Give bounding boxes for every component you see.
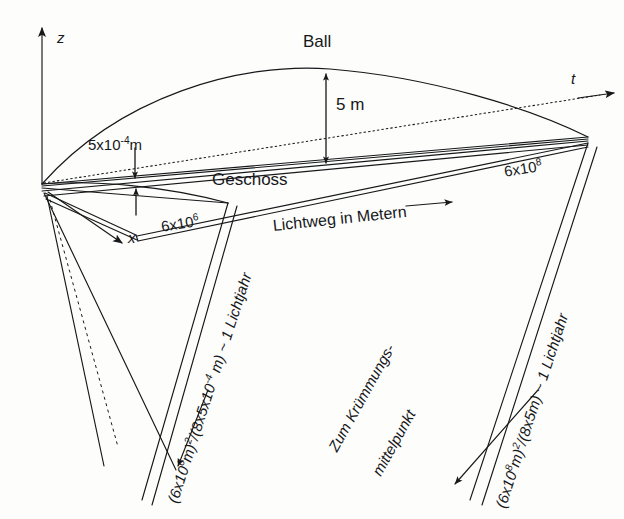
geschoss-trajectory	[42, 183, 228, 203]
curvature-line-right-b	[482, 147, 597, 505]
t-axis-head	[578, 93, 614, 98]
geschoss-height-exponent: -4	[121, 135, 130, 146]
z-axis-label: z	[57, 30, 65, 47]
geschoss-chord	[42, 188, 228, 203]
ball-height-label: 5 m	[336, 95, 364, 114]
t-axis-label: t	[571, 71, 575, 88]
center-of-curvature-note-line2: mittelpunkt	[369, 366, 442, 479]
light-path-arrow	[406, 202, 452, 206]
x-axis-label: x	[128, 230, 136, 247]
curvature-line-left-dotted	[50, 200, 118, 447]
figure-root: z x t Ball 5 m Geschoss 5x10-4m 6x106 6x…	[0, 0, 624, 519]
geschoss-height-mantissa: 5x10	[88, 136, 121, 153]
geschoss-label: Geschoss	[212, 170, 288, 189]
ball-label: Ball	[303, 32, 331, 51]
prism-edge-top	[45, 193, 136, 235]
geschoss-height-label: 5x10-4m	[88, 137, 142, 154]
geschoss-height-unit: m	[130, 136, 143, 153]
curvature-line-left-inner	[47, 196, 104, 466]
